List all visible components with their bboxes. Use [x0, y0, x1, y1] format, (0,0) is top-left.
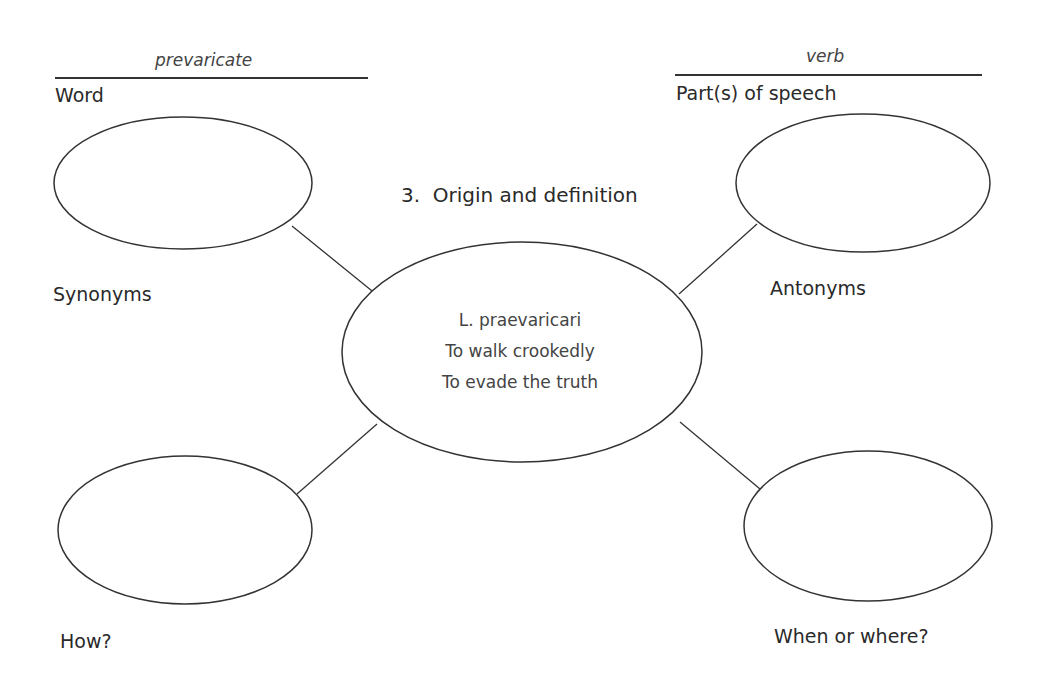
- definition-line-1: To walk crookedly: [340, 336, 700, 367]
- when-where-label: When or where?: [774, 625, 929, 647]
- word-label: Word: [55, 84, 104, 106]
- connector-antonyms: [679, 224, 757, 294]
- definition-line-2: To evade the truth: [340, 367, 700, 398]
- origin-line: L. praevaricari: [340, 305, 700, 336]
- how-ellipse[interactable]: [58, 456, 312, 604]
- synonyms-ellipse[interactable]: [54, 117, 312, 249]
- synonyms-label: Synonyms: [53, 283, 152, 305]
- how-label: How?: [60, 630, 112, 652]
- pos-label: Part(s) of speech: [676, 82, 836, 104]
- center-heading: 3. Origin and definition: [401, 183, 638, 207]
- connector-synonyms: [292, 226, 377, 295]
- connector-how: [297, 424, 377, 494]
- connector-when-where: [680, 422, 760, 489]
- word-value: prevaricate: [155, 50, 252, 70]
- when-where-ellipse[interactable]: [744, 451, 992, 601]
- antonyms-ellipse[interactable]: [736, 114, 990, 252]
- center-definition: L. praevaricari To walk crookedly To eva…: [340, 305, 700, 398]
- pos-value: verb: [806, 46, 844, 66]
- antonyms-label: Antonyms: [770, 277, 866, 299]
